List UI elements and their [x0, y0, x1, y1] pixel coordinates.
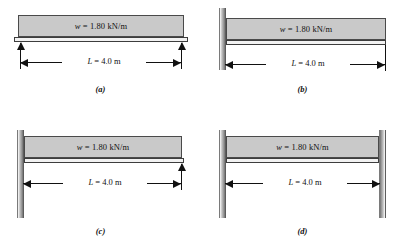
beam-member-d [226, 158, 379, 163]
panel-caption-c: (c) [0, 226, 201, 236]
fixed-wall-left-c [17, 130, 24, 218]
panel-a: w = 1.80 kN/m L = 4.0 m (a) [0, 0, 201, 122]
beam-member-a [14, 37, 188, 42]
span-dimension-label-b: L = 4.0 m [266, 58, 350, 68]
fixed-wall-right-d [379, 130, 386, 218]
span-dimension-label-d: L = 4.0 m [263, 177, 347, 187]
load-label-b: w = 1.80 kN/m [226, 24, 386, 34]
span-dimension-label-a: L = 4.0 m [62, 56, 146, 66]
right-extension-tick-b [385, 45, 386, 71]
panel-d: w = 1.80 kN/m L = 4.0 m (d) [202, 122, 403, 244]
fixed-wall-left-d [219, 130, 226, 218]
span-dimension-label-c: L = 4.0 m [63, 177, 147, 187]
distributed-load-block-a: w = 1.80 kN/m [18, 15, 184, 37]
panel-c: w = 1.80 kN/m L = 4.0 m (c) [0, 122, 201, 244]
panel-caption-d: (d) [202, 226, 403, 236]
load-label-a: w = 1.80 kN/m [75, 21, 127, 31]
load-label-d: w = 1.80 kN/m [226, 142, 379, 152]
load-label-c: w = 1.80 kN/m [24, 142, 182, 152]
beam-diagram-figure: w = 1.80 kN/m L = 4.0 m (a) w = 1.80 kN/… [0, 0, 403, 245]
right-extension-tick-a [181, 43, 182, 69]
panel-caption-b: (b) [202, 84, 403, 94]
beam-member-b [226, 40, 386, 45]
panel-b: w = 1.80 kN/m L = 4.0 m (b) [202, 0, 403, 122]
panel-caption-a: (a) [0, 84, 201, 94]
beam-member-c [24, 158, 184, 163]
right-extension-tick-c [181, 164, 182, 190]
